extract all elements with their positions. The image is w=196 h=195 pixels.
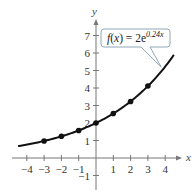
x-axis-title: x <box>185 151 191 163</box>
data-point <box>128 99 134 105</box>
y-tick-label: 5 <box>85 65 91 77</box>
y-tick-label: −1 <box>78 170 90 182</box>
y-tick-label: 6 <box>85 47 91 59</box>
x-tick-label: −4 <box>21 163 33 175</box>
data-point <box>93 120 99 126</box>
data-point <box>145 83 151 89</box>
x-tick-label: 1 <box>111 163 117 175</box>
x-axis-arrow-icon <box>176 156 182 161</box>
x-tick-label: −3 <box>38 163 50 175</box>
x-tick-label: 3 <box>145 163 151 175</box>
y-tick-label: 3 <box>85 100 91 112</box>
x-tick-label: 4 <box>162 163 168 175</box>
function-callout: f(x) = 2e0.24x <box>101 29 170 67</box>
y-axis-title: y <box>91 5 97 17</box>
x-tick-label: −2 <box>56 163 68 175</box>
data-point <box>41 138 47 144</box>
data-point <box>76 128 82 134</box>
data-point <box>59 134 65 140</box>
y-tick-label: 1 <box>85 135 91 147</box>
y-tick-label: 7 <box>85 30 91 42</box>
y-tick-label: 4 <box>85 82 91 94</box>
x-tick-label: 2 <box>128 163 134 175</box>
data-point <box>111 111 117 117</box>
exponential-chart: −4−3−2−11234−11234567 f(x) = 2e0.24x y x <box>0 0 196 195</box>
y-axis-arrow-icon <box>94 19 99 25</box>
